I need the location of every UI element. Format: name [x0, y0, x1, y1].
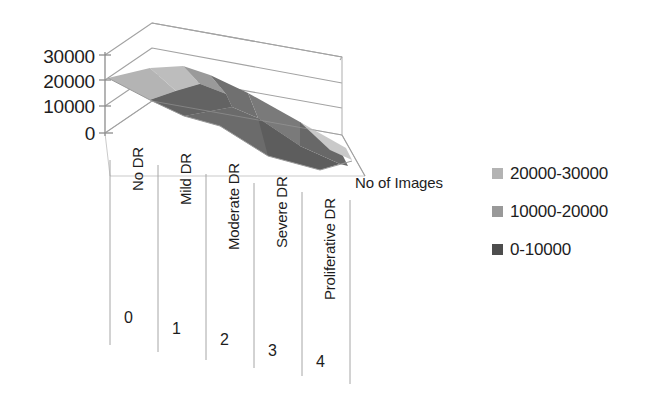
category-code-1: 1 — [172, 321, 181, 337]
y-axis-line — [99, 52, 113, 136]
legend-label: 20000-30000 — [510, 165, 608, 182]
category-label-moderate-dr: Moderate DR — [226, 163, 241, 250]
legend: 20000-30000 10000-20000 0-10000 — [492, 160, 608, 274]
surface-chart: 30000 20000 10000 0 — [0, 0, 664, 393]
category-code-3: 3 — [268, 343, 277, 359]
depth-axis-title: No of Images — [355, 175, 443, 190]
legend-label: 10000-20000 — [510, 203, 608, 220]
legend-label: 0-10000 — [510, 241, 571, 258]
legend-swatch-icon — [492, 206, 503, 217]
category-label-no-dr: No DR — [130, 147, 145, 191]
category-code-2: 2 — [220, 332, 229, 348]
legend-swatch-icon — [492, 244, 503, 255]
legend-swatch-icon — [492, 168, 503, 179]
legend-item-20000-30000: 20000-30000 — [492, 160, 608, 186]
legend-item-10000-20000: 10000-20000 — [492, 198, 608, 224]
legend-item-0-10000: 0-10000 — [492, 236, 608, 262]
category-code-0: 0 — [124, 310, 133, 326]
category-code-4: 4 — [316, 354, 325, 370]
category-label-severe-dr: Severe DR — [274, 176, 289, 248]
category-label-proliferative-dr: Proliferative DR — [322, 198, 337, 300]
category-label-mild-dr: Mild DR — [178, 153, 193, 205]
